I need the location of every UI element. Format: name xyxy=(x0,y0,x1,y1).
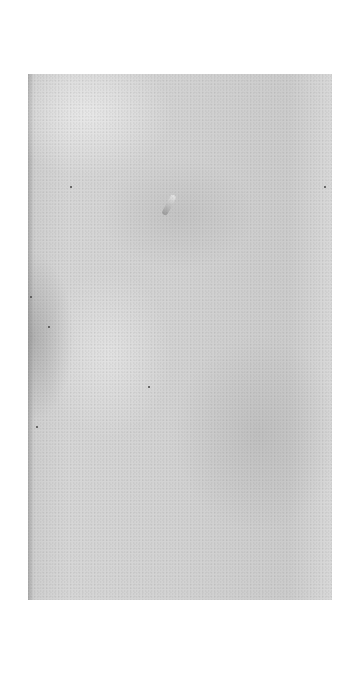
paper-speck xyxy=(324,186,326,188)
paper-blemish xyxy=(161,194,177,216)
paper-speck xyxy=(30,296,32,298)
paper-speck xyxy=(148,386,150,388)
blank-scanned-page xyxy=(28,74,332,600)
paper-speck xyxy=(48,326,50,328)
paper-speck xyxy=(70,186,72,188)
paper-speck xyxy=(36,426,38,428)
